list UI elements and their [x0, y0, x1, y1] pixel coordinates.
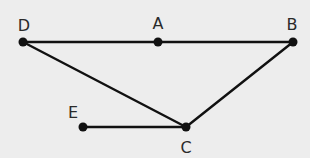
segment-BC	[186, 42, 293, 127]
segments-group	[23, 42, 293, 127]
label-B: B	[287, 15, 298, 34]
labels-group: DABCE	[18, 14, 298, 157]
label-C: C	[180, 138, 191, 157]
geometry-diagram: DABCE	[0, 0, 310, 158]
label-A: A	[153, 14, 164, 33]
point-A	[154, 38, 163, 47]
point-E	[79, 123, 88, 132]
point-B	[289, 38, 298, 47]
label-E: E	[68, 103, 78, 122]
points-group	[19, 38, 298, 132]
point-D	[19, 38, 28, 47]
segment-DC	[23, 42, 186, 127]
diagram-svg: DABCE	[0, 0, 310, 158]
point-C	[182, 123, 191, 132]
label-D: D	[18, 16, 30, 35]
